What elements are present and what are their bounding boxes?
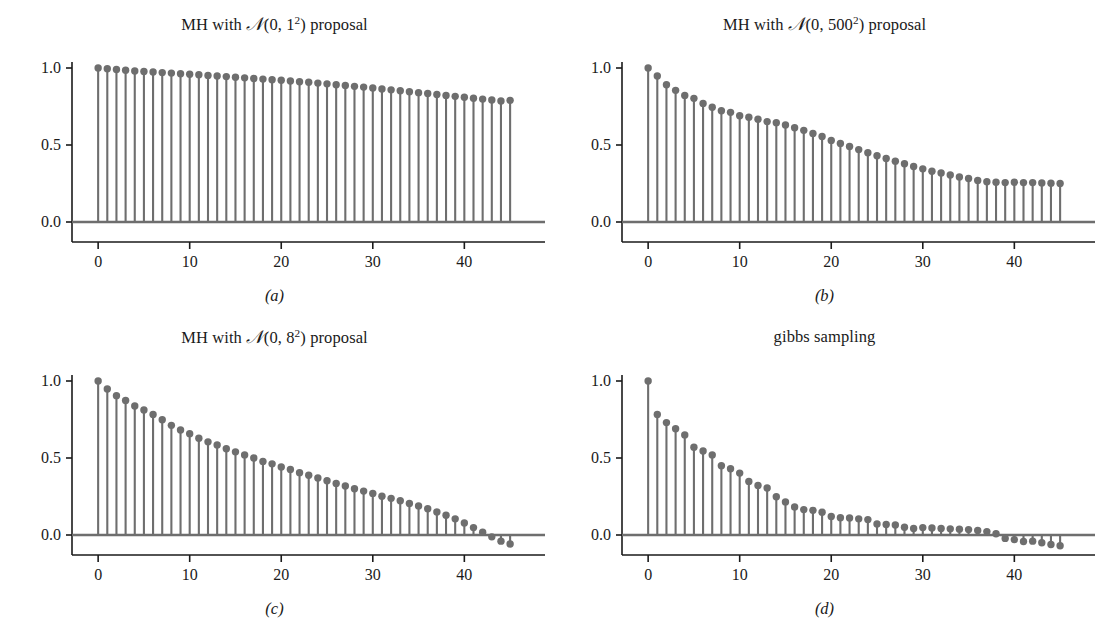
acf-figure-grid: MH with 𝒩(0, 12) proposal1.00.50.0010203… (0, 0, 1099, 626)
stem-marker (397, 87, 404, 94)
stem-marker (433, 91, 440, 98)
y-axis-tick-label: 0.0 (560, 527, 611, 543)
stem-marker (342, 482, 349, 489)
stem-marker (892, 157, 899, 164)
stem-marker (901, 160, 908, 167)
stem-marker (122, 67, 129, 74)
stem-marker (937, 525, 944, 532)
stem-marker (947, 171, 954, 178)
stem-marker (168, 69, 175, 76)
x-axis-tick-label: 20 (806, 254, 856, 270)
stem-marker (113, 392, 120, 399)
stem-marker (451, 93, 458, 100)
stem-marker (415, 502, 422, 509)
stem-marker (342, 82, 349, 89)
stem-marker (983, 528, 990, 535)
stem-marker (855, 146, 862, 153)
stem-marker (177, 70, 184, 77)
panel-caption: (b) (550, 286, 1099, 306)
y-axis-tick-label: 1.0 (10, 60, 61, 76)
stem-marker (754, 482, 761, 489)
stem-marker (314, 79, 321, 86)
stem-marker (1001, 179, 1008, 186)
stem-marker (818, 509, 825, 516)
stem-marker (809, 130, 816, 137)
x-axis-tick-label: 40 (439, 254, 489, 270)
stem-marker (1011, 536, 1018, 543)
stem-marker (250, 75, 257, 82)
stem-marker (699, 447, 706, 454)
y-axis-tick-label: 0.0 (10, 214, 61, 230)
stem-marker (1020, 179, 1027, 186)
stem-marker (122, 397, 129, 404)
stem-marker (232, 448, 239, 455)
stem-marker (873, 152, 880, 159)
y-axis-tick-label: 1.0 (560, 60, 611, 76)
stem-marker (287, 466, 294, 473)
panel-caption: (d) (550, 599, 1099, 619)
stem-marker (323, 80, 330, 87)
stem-marker (424, 90, 431, 97)
stem-marker (332, 480, 339, 487)
stem-marker (956, 173, 963, 180)
x-axis-tick-label: 40 (989, 567, 1039, 583)
stem-marker (1038, 539, 1045, 546)
stem-marker (140, 68, 147, 75)
panel-caption: (c) (0, 599, 549, 619)
stem-marker (864, 149, 871, 156)
stem-marker (195, 71, 202, 78)
stem-marker (186, 430, 193, 437)
stem-marker (186, 71, 193, 78)
stem-marker (837, 140, 844, 147)
stem-marker (506, 97, 513, 104)
x-axis-tick-label: 0 (73, 254, 123, 270)
stem-marker (828, 513, 835, 520)
stem-marker (259, 458, 266, 465)
stem-marker (241, 451, 248, 458)
stem-marker (644, 377, 651, 384)
stem-marker (1056, 180, 1063, 187)
stem-marker (369, 84, 376, 91)
stem-marker (296, 469, 303, 476)
y-axis-tick-label: 0.0 (10, 527, 61, 543)
stem-marker (882, 155, 889, 162)
stem-marker (718, 462, 725, 469)
stem-marker (681, 92, 688, 99)
y-axis-tick-label: 0.5 (560, 450, 611, 466)
stem-marker (287, 77, 294, 84)
stem-marker (424, 505, 431, 512)
stem-marker (195, 435, 202, 442)
x-axis-tick-label: 20 (256, 567, 306, 583)
x-axis-tick-label: 30 (898, 567, 948, 583)
stem-marker (131, 402, 138, 409)
y-axis-tick-label: 0.5 (10, 450, 61, 466)
stem-marker (745, 478, 752, 485)
stem-marker (644, 64, 651, 71)
x-axis-tick-label: 10 (715, 254, 765, 270)
stem-marker (323, 477, 330, 484)
stem-marker (791, 503, 798, 510)
stem-marker (204, 438, 211, 445)
stem-marker (992, 530, 999, 537)
stem-marker (763, 484, 770, 491)
stem-marker (773, 493, 780, 500)
stem-marker (718, 107, 725, 114)
x-axis-tick-label: 10 (715, 567, 765, 583)
stem-marker (1047, 541, 1054, 548)
stem-marker (369, 490, 376, 497)
acf-panel-b: MH with 𝒩(0, 5002) proposal1.00.50.00102… (550, 0, 1099, 313)
stem-marker (204, 72, 211, 79)
stem-marker (159, 416, 166, 423)
stem-marker (956, 525, 963, 532)
x-axis-tick-label: 0 (623, 254, 673, 270)
stem-marker (782, 121, 789, 128)
stem-series (644, 64, 1063, 222)
stem-marker (113, 66, 120, 73)
stem-marker (690, 444, 697, 451)
stem-marker (360, 487, 367, 494)
stem-series (644, 377, 1063, 549)
stem-marker (1056, 542, 1063, 549)
stem-marker (332, 81, 339, 88)
stem-marker (223, 73, 230, 80)
stem-marker (754, 115, 761, 122)
